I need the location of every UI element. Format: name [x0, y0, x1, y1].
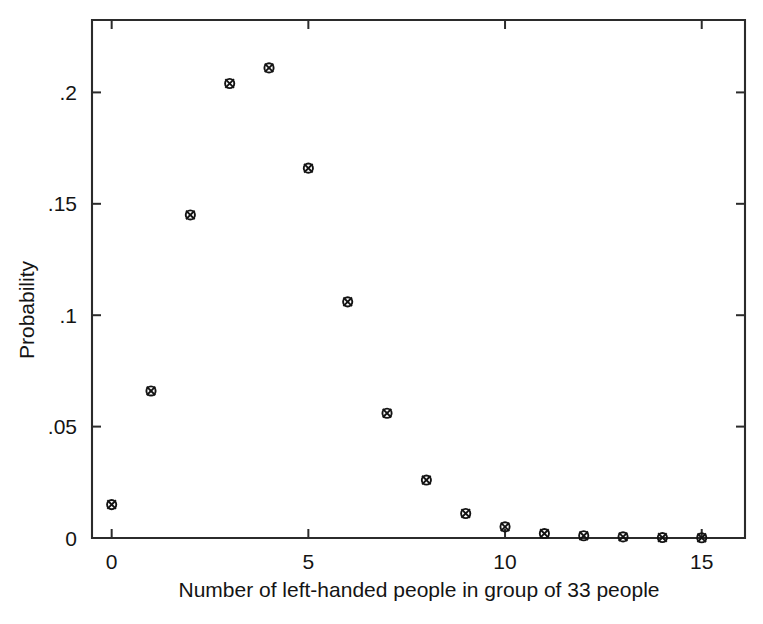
- y-tick-label: .15: [48, 192, 77, 215]
- data-point-marker: [382, 409, 391, 418]
- data-point-marker: [264, 63, 273, 72]
- y-tick-label: .2: [59, 81, 77, 104]
- x-tick-label: 0: [106, 550, 118, 573]
- y-tick-label: .1: [59, 304, 77, 327]
- plot-canvas: 0.05.1.15.2051015 Number of left-handed …: [0, 0, 763, 624]
- data-markers: [107, 63, 706, 542]
- y-tick-label: .05: [48, 415, 77, 438]
- data-point-marker: [422, 475, 431, 484]
- data-point-marker: [304, 164, 313, 173]
- data-point-marker: [618, 532, 627, 541]
- y-tick-label: 0: [65, 527, 77, 550]
- data-point-marker: [225, 79, 234, 88]
- x-tick-label: 5: [303, 550, 315, 573]
- plot-frame: [92, 20, 745, 538]
- data-point-marker: [540, 529, 549, 538]
- axis-ticks: [92, 20, 745, 538]
- x-axis-title: Number of left-handed people in group of…: [178, 578, 659, 601]
- data-point-marker: [186, 210, 195, 219]
- x-tick-label: 10: [493, 550, 516, 573]
- data-point-marker: [146, 386, 155, 395]
- axes-frame: [92, 20, 745, 538]
- data-point-marker: [461, 509, 470, 518]
- data-point-marker: [343, 297, 352, 306]
- x-tick-label: 15: [690, 550, 713, 573]
- axis-tick-labels: 0.05.1.15.2051015: [48, 81, 714, 573]
- probability-scatter-figure: 0.05.1.15.2051015 Number of left-handed …: [0, 0, 763, 624]
- data-point-marker: [107, 500, 116, 509]
- y-axis-title: Probability: [15, 260, 38, 359]
